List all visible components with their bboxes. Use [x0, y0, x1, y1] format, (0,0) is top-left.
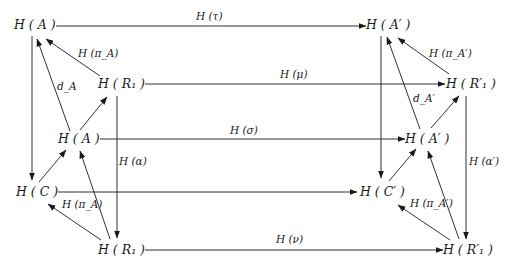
- label-h-alpha: H (α): [119, 155, 147, 167]
- arrow-cp-ap: [389, 149, 416, 181]
- label-h-pia-bottom: H (π_A): [62, 198, 102, 210]
- label-h-tau: H (τ): [196, 10, 223, 22]
- arrow-a-r1: [80, 97, 107, 130]
- node-h-r1-upper: H ( R₁ ): [98, 76, 145, 91]
- node-h-aprime-top: H ( A′ ): [366, 17, 410, 32]
- label-h-sigma: H (σ): [230, 124, 258, 136]
- node-h-r1prime-upper: H ( R′₁ ): [446, 76, 496, 91]
- arrow-dap: [387, 37, 420, 129]
- arrow-r1-a: [80, 151, 110, 239]
- node-h-a-top: H ( A ): [14, 17, 56, 32]
- arrow-ap-r1p: [431, 96, 459, 128]
- node-h-aprime-mid: H ( A′ ): [405, 131, 449, 146]
- node-h-c: H ( C ): [16, 184, 58, 199]
- label-h-mu: H (μ): [280, 68, 308, 80]
- label-h-nu: H (ν): [276, 233, 303, 245]
- label-h-piap-top: H (π_A′): [429, 47, 472, 59]
- node-h-r1-bottom: H ( R₁ ): [98, 242, 145, 257]
- commutative-diagram: H ( A ) H ( R₁ ) H ( A ) H ( C ) H ( R₁ …: [0, 0, 517, 270]
- arrow-c-a: [39, 150, 66, 182]
- label-h-piap-bottom: H (π_A′): [410, 197, 453, 209]
- arrow-piap-bottom: [398, 205, 450, 240]
- node-h-cprime: H ( C′ ): [360, 184, 405, 199]
- arrow-r1p-ap: [428, 151, 459, 239]
- label-h-pia-top: H (π_A): [78, 47, 118, 59]
- label-d-aprime: d_A′: [413, 92, 435, 104]
- label-h-alphaprime: H (α′): [469, 155, 499, 167]
- label-d-a: d_A: [57, 80, 77, 92]
- node-h-a-mid: H ( A ): [58, 131, 100, 146]
- node-h-r1prime-bottom: H ( R′₁ ): [443, 242, 493, 257]
